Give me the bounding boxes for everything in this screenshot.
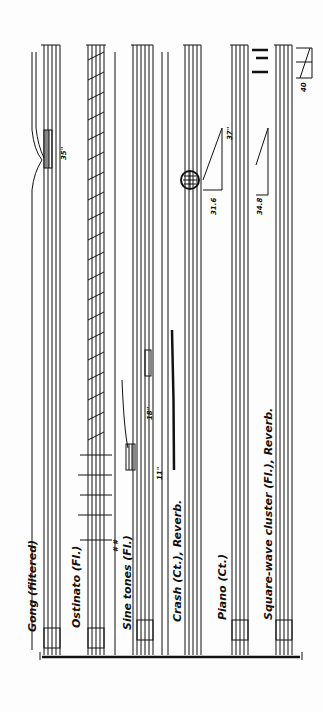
end-time-mark: 40 — [300, 82, 308, 92]
label-sine: Sine tones (Fl.) — [121, 535, 134, 630]
sine-time-mark: 11" — [156, 467, 164, 480]
staff-square: 40 — [274, 45, 312, 655]
label-ostinato: Ostinato (Fl.) — [70, 546, 83, 628]
crash-swell-mark: 37" — [226, 127, 234, 140]
score-page: 35" # # 18" 11" — [0, 0, 323, 712]
sine-cluster — [126, 444, 135, 470]
score-svg: 35" # # 18" 11" — [0, 0, 323, 712]
square-time-mark: 34.8 — [256, 198, 264, 215]
label-square: Square-wave cluster (Fl.), Reverb. — [262, 408, 275, 620]
label-gong: Gong (filtered) — [26, 540, 39, 632]
label-crash: Crash (Ct.), Reverb. — [171, 500, 184, 622]
crash-envelope — [203, 128, 222, 190]
ostinato-dynamic: # # — [112, 539, 120, 552]
staff-ostinato: # # — [78, 45, 120, 655]
label-piano: Piano (Ct.) — [216, 554, 229, 620]
end-box — [296, 48, 312, 78]
crash-decay-line — [172, 330, 174, 470]
crash-time-mark: 18" — [146, 407, 154, 420]
ostinato-accents — [78, 455, 112, 540]
piano-cluster-marks — [252, 50, 268, 72]
gong-time-mark: 35" — [60, 147, 68, 160]
square-envelope — [256, 128, 268, 195]
crash-decay-mark: 31.6 — [210, 198, 218, 215]
crash-cluster — [145, 350, 151, 376]
